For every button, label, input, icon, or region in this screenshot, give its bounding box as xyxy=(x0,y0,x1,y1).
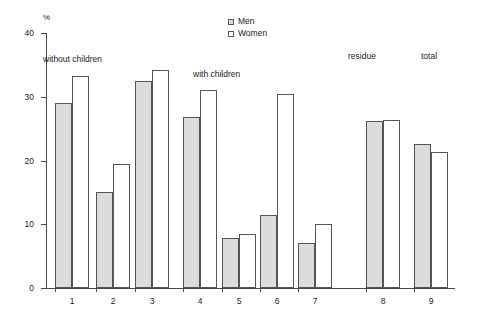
bar-men-1 xyxy=(55,103,72,288)
bar-women-5 xyxy=(239,234,256,288)
x-tick-mark xyxy=(135,288,136,292)
bar-men-2 xyxy=(96,192,113,288)
y-tick-label: 10 xyxy=(0,220,34,229)
chart-legend: Men Women xyxy=(228,16,267,40)
legend-item-men: Men xyxy=(228,16,267,27)
legend-item-women: Women xyxy=(228,28,267,39)
bar-men-4 xyxy=(183,117,200,288)
group-annotation-with-children: with children xyxy=(193,70,240,79)
x-tick-mark xyxy=(298,288,299,292)
y-axis-unit-label: % xyxy=(43,14,50,22)
bar-men-9 xyxy=(414,144,431,288)
y-tick-mark xyxy=(41,33,46,34)
x-tick-label-8: 8 xyxy=(363,297,403,306)
y-tick-mark xyxy=(41,97,46,98)
x-tick-mark xyxy=(414,288,415,292)
legend-label-women: Women xyxy=(238,29,267,38)
bar-women-2 xyxy=(113,164,130,288)
x-axis-line xyxy=(46,288,455,289)
bar-women-8 xyxy=(383,120,400,288)
x-tick-mark xyxy=(183,288,184,292)
legend-swatch-men-icon xyxy=(228,19,234,25)
bar-women-6 xyxy=(277,94,294,288)
bar-men-7 xyxy=(298,243,315,288)
y-tick-label: 30 xyxy=(0,93,34,102)
x-tick-mark xyxy=(222,288,223,292)
bar-women-1 xyxy=(72,76,89,288)
y-tick-mark xyxy=(41,224,46,225)
legend-label-men: Men xyxy=(238,17,255,26)
bar-women-7 xyxy=(315,224,332,288)
y-axis-line xyxy=(46,33,47,289)
x-tick-mark xyxy=(96,288,97,292)
x-tick-label-9: 9 xyxy=(411,297,451,306)
y-tick-label: 40 xyxy=(0,29,34,38)
bar-women-9 xyxy=(431,152,448,288)
x-tick-label-3: 3 xyxy=(132,297,172,306)
bar-women-3 xyxy=(152,70,169,288)
group-annotation-without-children: without children xyxy=(43,55,102,64)
x-tick-label-2: 2 xyxy=(93,297,133,306)
group-annotation-total: total xyxy=(421,52,437,61)
y-tick-mark xyxy=(41,288,46,289)
x-tick-label-7: 7 xyxy=(295,297,335,306)
x-tick-label-5: 5 xyxy=(219,297,259,306)
x-tick-label-6: 6 xyxy=(257,297,297,306)
x-tick-label-1: 1 xyxy=(52,297,92,306)
bar-men-3 xyxy=(135,81,152,288)
bar-women-4 xyxy=(200,90,217,288)
x-tick-mark xyxy=(55,288,56,292)
y-tick-label: 0 xyxy=(0,284,34,293)
y-tick-label: 20 xyxy=(0,157,34,166)
legend-swatch-women-icon xyxy=(228,31,234,37)
bar-men-6 xyxy=(260,215,277,288)
x-tick-label-4: 4 xyxy=(180,297,220,306)
bar-chart: % 403020100 123456789 without children w… xyxy=(0,0,483,327)
bar-men-8 xyxy=(366,121,383,288)
group-annotation-residue: residue xyxy=(348,52,376,61)
y-tick-mark xyxy=(41,161,46,162)
x-tick-mark xyxy=(366,288,367,292)
bar-men-5 xyxy=(222,238,239,288)
x-tick-mark xyxy=(260,288,261,292)
